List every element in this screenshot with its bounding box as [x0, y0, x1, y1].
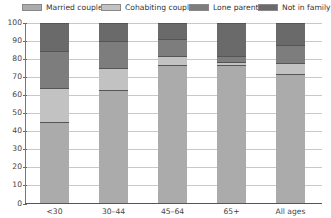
stacked-bar: [40, 23, 69, 204]
bar-segment: [40, 23, 69, 51]
legend-swatch-cohabiting-couple: [101, 4, 121, 11]
y-tick-label: 60: [0, 90, 22, 99]
x-tick-label: 65+: [207, 207, 257, 216]
x-tick-label: 45–64: [148, 207, 198, 216]
bar-segment: [99, 68, 128, 90]
y-tick-label: 100: [0, 18, 22, 27]
bar-segment: [158, 65, 187, 204]
bar-segment: [217, 65, 246, 204]
bar-segment: [99, 23, 128, 41]
legend-label: Married couple: [46, 3, 103, 12]
bar-segment: [217, 56, 246, 62]
y-tick-label: 50: [0, 108, 22, 117]
bar-segment: [158, 23, 187, 39]
legend-item-cohabiting-couple: Cohabiting couple: [101, 3, 194, 12]
y-tick-label: 30: [0, 144, 22, 153]
legend-label: Not in family: [282, 3, 331, 12]
legend-item-lone-parent: Lone parent: [189, 3, 259, 12]
bar-segment: [276, 74, 305, 204]
bar-segment: [99, 90, 128, 204]
y-tick-label: 80: [0, 54, 22, 63]
y-tick-mark: [23, 204, 27, 205]
legend-item-not-in-family: Not in family: [258, 3, 331, 12]
stacked-bar: [158, 23, 187, 204]
bar-segment: [99, 41, 128, 68]
legend-item-married-couple: Married couple: [22, 3, 103, 12]
chart-legend: Married couple Cohabiting couple Lone pa…: [0, 3, 327, 17]
stacked-bar: [276, 23, 305, 204]
legend-label: Lone parent: [213, 3, 259, 12]
legend-swatch-not-in-family: [258, 4, 278, 11]
x-tick-label: <30: [30, 207, 80, 216]
y-tick-label: 40: [0, 126, 22, 135]
legend-swatch-married-couple: [22, 4, 42, 11]
bar-segment: [40, 51, 69, 88]
bar-segment: [40, 122, 69, 203]
bar-segment: [276, 45, 305, 63]
bar-segment: [158, 39, 187, 55]
y-tick-label: 0: [0, 199, 22, 208]
legend-swatch-lone-parent: [189, 4, 209, 11]
bar-segment: [40, 88, 69, 122]
stacked-bar: [217, 23, 246, 204]
y-tick-label: 20: [0, 162, 22, 171]
y-tick-label: 70: [0, 72, 22, 81]
x-tick-label: 30–44: [89, 207, 139, 216]
y-axis: [25, 23, 26, 204]
bar-segment: [217, 62, 246, 65]
bar-segment: [276, 23, 305, 45]
bar-segment: [158, 56, 187, 65]
y-tick-label: 10: [0, 180, 22, 189]
legend-label: Cohabiting couple: [125, 3, 194, 12]
bar-segment: [217, 23, 246, 55]
bar-segment: [276, 63, 305, 74]
x-tick-label: All ages: [266, 207, 316, 216]
x-axis: [25, 203, 322, 204]
stacked-bar: [99, 23, 128, 204]
y-tick-label: 90: [0, 36, 22, 45]
